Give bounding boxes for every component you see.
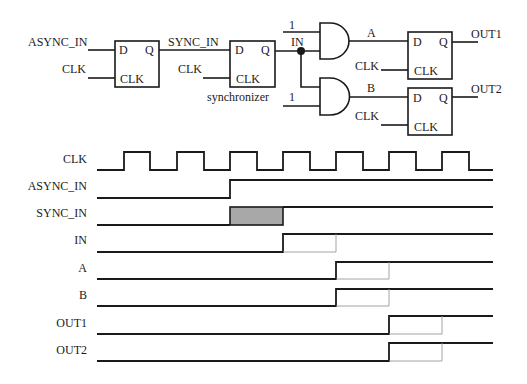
timing-label-sync-in: SYNC_IN [36,206,87,220]
ff1-clk-input-label: CLK [62,62,86,76]
timing-label-out2: OUT2 [56,343,87,357]
ff2-q-pin: Q [261,43,270,57]
waveform-out1-alt [389,316,442,334]
in-node-label: IN [291,35,304,49]
timing-label-a: A [78,261,87,275]
ff4-q-pin: Q [439,91,448,105]
waveform-b [97,289,493,306]
timing-label-b: B [79,288,87,302]
timing-label-clk: CLK [63,152,87,166]
ff3-d-pin: D [413,35,422,49]
waveform-in [97,234,493,252]
metastable-region [230,207,283,225]
gate-b-const-label: 1 [289,90,295,104]
flip-flop-2-synchronizer: SYNC_IN CLK D Q CLK synchronizer [159,35,275,104]
ff4-clk-pin: CLK [414,120,438,134]
ff2-d-pin: D [235,43,244,57]
ff4-d-pin: D [413,91,422,105]
timing-diagram: CLK ASYNC_IN SYNC_IN IN A B OUT1 OUT2 [28,152,493,361]
ff3-q-pin: Q [439,35,448,49]
and-gate-b-icon [320,78,350,115]
ff2-clk-input-label: CLK [178,62,202,76]
ff1-clk-pin: CLK [120,72,144,86]
out2-label: OUT2 [471,82,502,96]
waveform-in-alt [283,234,336,252]
in-branch-wire [301,51,320,87]
synchronizer-caption: synchronizer [207,90,269,104]
waveform-out2-alt [389,343,442,361]
flip-flop-1: ASYNC_IN CLK D Q CLK [28,35,159,87]
flip-flop-4: CLK D Q CLK OUT2 [355,82,502,135]
timing-label-in: IN [74,233,87,247]
signal-b-label: B [367,81,375,95]
synchronizer-diagram: ASYNC_IN CLK D Q CLK SYNC_IN CLK D Q CLK… [0,0,527,384]
ff4-clk-input-label: CLK [355,109,379,123]
flip-flop-3: CLK D Q CLK OUT1 [355,27,502,79]
and-gate-network: IN 1 A 1 B [275,18,408,115]
ff2-clk-pin: CLK [236,72,260,86]
waveform-clk [97,152,493,170]
ff3-clk-input-label: CLK [355,59,379,73]
timing-label-out1: OUT1 [56,316,87,330]
out1-label: OUT1 [471,27,502,41]
waveform-a [97,262,493,279]
timing-label-async-in: ASYNC_IN [28,179,88,193]
waveform-a-alt [336,262,389,279]
gate-a-const-label: 1 [289,18,295,32]
sync-in-label: SYNC_IN [168,35,219,49]
and-gate-a-icon [320,23,349,59]
ff3-clk-pin: CLK [414,64,438,78]
signal-a-label: A [367,26,376,40]
waveform-out1 [97,316,493,334]
waveform-async-in [97,180,493,198]
waveform-b-alt [336,289,389,306]
async-in-label: ASYNC_IN [28,35,88,49]
ff1-q-pin: Q [145,43,154,57]
ff1-d-pin: D [119,43,128,57]
waveform-out2 [97,343,493,361]
